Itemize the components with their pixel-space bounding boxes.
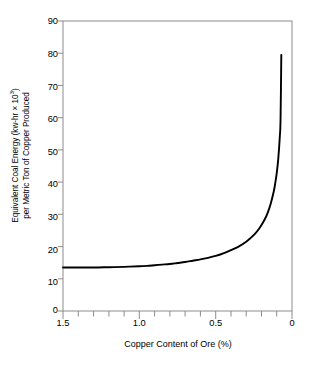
x-axis-tick-labels: 1.5 1.0 0.5 0 bbox=[0, 319, 320, 333]
x-tick-label: 0.5 bbox=[198, 319, 234, 328]
x-axis-minor-ticks bbox=[78, 311, 276, 317]
plot-area bbox=[0, 0, 320, 367]
x-axis-major-ticks bbox=[63, 311, 292, 319]
chart-figure: Equivalent Coal Energy (kw-hr × 103) per… bbox=[0, 0, 320, 367]
x-tick-label: 0 bbox=[274, 319, 310, 328]
x-tick-label: 1.0 bbox=[121, 319, 157, 328]
x-axis-title: Copper Content of Ore (%) bbox=[62, 339, 294, 350]
x-tick-label: 1.5 bbox=[45, 319, 81, 328]
